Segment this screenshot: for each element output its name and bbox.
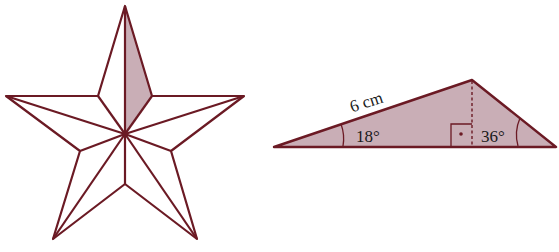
angle-right-label: 36° [481, 127, 505, 146]
star-figure [6, 6, 244, 239]
triangle-shape [274, 80, 556, 147]
star-line-bottom-right [125, 134, 197, 239]
star-line-left [6, 96, 125, 134]
angle-left-label: 18° [356, 127, 380, 146]
triangle-figure [274, 80, 556, 147]
right-angle-dot [459, 132, 463, 136]
star-line-inner-tl [98, 96, 125, 134]
figure-canvas: 6 cm 18° 36° [0, 0, 559, 252]
star-line-bottom-left [53, 134, 125, 239]
star-center-dot [123, 132, 128, 137]
